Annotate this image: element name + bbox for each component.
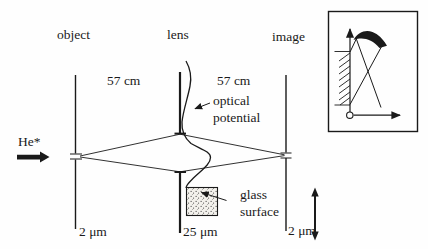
distance-left-label: 57 cm	[107, 72, 140, 89]
lens-scale-label: 25 μm	[183, 223, 218, 240]
inset-trajectory-diagram	[329, 12, 418, 132]
optical-potential-label: optical potential	[213, 92, 277, 127]
glass-surface-block	[187, 188, 218, 216]
object-plane	[70, 75, 82, 229]
image-scale-label: 2 μm	[288, 222, 316, 239]
lens-plane	[175, 72, 187, 233]
inset-origin-circle	[347, 112, 353, 118]
object-column-label: object	[57, 26, 90, 43]
lens-column-label: lens	[167, 26, 189, 43]
optics-figure: object lens image 57 cm 57 cm optical po…	[0, 0, 428, 249]
atom-rays	[80, 134, 285, 172]
object-slit-marks	[70, 154, 82, 159]
optical-potential-pointer-arrow	[195, 103, 210, 109]
beam-arrow	[17, 152, 50, 163]
glass-surface-label: glass surface	[240, 186, 298, 221]
object-scale-label: 2 μm	[79, 223, 107, 240]
image-slit-marks	[281, 153, 292, 158]
ray-upper	[80, 134, 285, 156]
ray-lower	[80, 156, 285, 172]
image-column-label: image	[272, 28, 305, 45]
distance-right-label: 57 cm	[217, 72, 250, 89]
beam-label: He*	[18, 133, 41, 150]
